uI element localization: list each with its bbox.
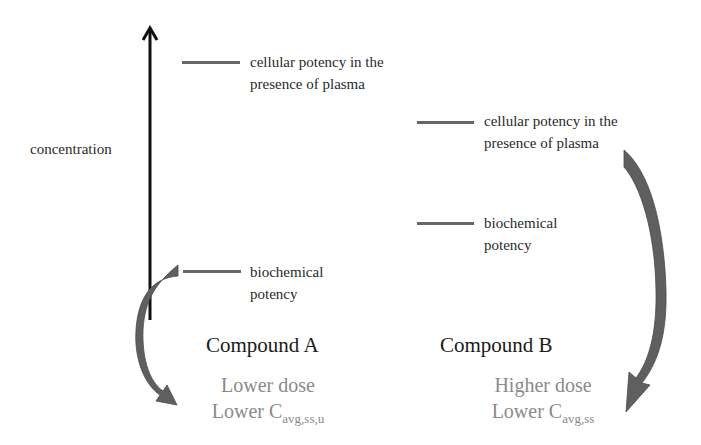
compound-a-cellular-potency-label: cellular potency in the presence of plas… [250,51,384,95]
compound-b-outcome: Higher dose Lower Cavg,ss [478,372,608,432]
compound-b-biochemical-potency-line1: biochemical [484,212,557,234]
compound-a-outcome-dose: Lower dose [198,372,338,398]
compound-b-title: Compound B [440,333,553,358]
compound-a-cellular-potency-line1: cellular potency in the [250,51,384,73]
compound-b-outcome-cavg-sub: avg,ss [562,411,594,426]
compound-a-cellular-potency-tick [182,61,240,64]
compound-a-cellular-potency-line2: presence of plasma [250,73,384,95]
compound-b-biochemical-potency-line2: potency [484,234,557,256]
compound-b-cellular-potency-line2: presence of plasma [484,132,618,154]
compound-a-outcome: Lower dose Lower Cavg,ss,u [198,372,338,432]
compound-b-outcome-cavg: Lower Cavg,ss [478,398,608,432]
compound-b-cellular-potency-tick [417,121,474,124]
compound-a-biochemical-potency-label: biochemical potency [250,261,323,305]
compound-a-biochemical-potency-line1: biochemical [250,261,323,283]
concentration-axis-arrow [143,28,157,320]
compound-a-outcome-cavg: Lower Cavg,ss,u [198,398,338,432]
compound-a-title: Compound A [206,333,319,358]
compound-b-cellular-potency-label: cellular potency in the presence of plas… [484,110,618,154]
compound-a-biochemical-potency-tick [183,270,241,273]
compound-a-outcome-cavg-main: Lower C [212,400,283,422]
compound-a-outcome-cavg-sub: avg,ss,u [282,411,324,426]
compound-b-curved-arrow-icon [624,150,666,412]
compound-b-biochemical-potency-label: biochemical potency [484,212,557,256]
compound-b-biochemical-potency-tick [417,222,474,225]
compound-a-biochemical-potency-line2: potency [250,283,323,305]
axis-label-concentration: concentration [30,138,112,160]
compound-b-outcome-cavg-main: Lower C [492,400,563,422]
compound-a-curved-arrow-icon [136,265,178,405]
compound-b-cellular-potency-line1: cellular potency in the [484,110,618,132]
compound-b-outcome-dose: Higher dose [478,372,608,398]
